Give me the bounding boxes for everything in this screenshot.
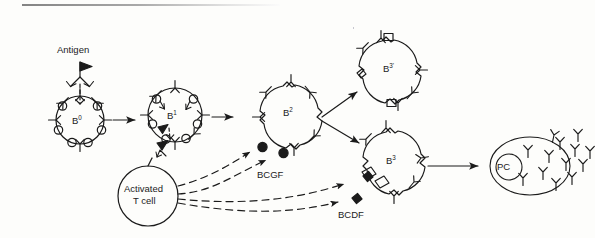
signal-bcgf-arrow bbox=[178, 152, 250, 186]
label-antigen: Antigen bbox=[57, 44, 89, 55]
label-plasma-cell: PC bbox=[497, 161, 510, 172]
signal-bcgf-arrow-2 bbox=[178, 160, 266, 194]
label-bcgf: BCGF bbox=[257, 169, 284, 180]
bcgf-receptor-2 bbox=[279, 148, 288, 157]
label-cell-b1: B1 bbox=[167, 109, 177, 121]
label-t-cell-line2: T cell bbox=[133, 195, 156, 206]
arrow-b2-to-b3 bbox=[322, 121, 359, 143]
bcgf-receptor-1 bbox=[258, 142, 267, 151]
cell-b3prime bbox=[357, 30, 428, 110]
label-bcdf: BCDF bbox=[338, 209, 364, 220]
label-t-cell-line1: Activated bbox=[124, 183, 163, 194]
bcdf-receptor-1 bbox=[363, 172, 373, 182]
label-cell-b3prime: B3' bbox=[383, 62, 394, 74]
arrow-b2-to-b3prime bbox=[322, 92, 357, 117]
signal-bcdf-arrow bbox=[178, 184, 344, 202]
label-cell-b2: B2 bbox=[283, 106, 293, 118]
label-cell-b0: B0 bbox=[72, 114, 82, 126]
label-cell-b3: B3 bbox=[386, 154, 396, 166]
signal-bcdf-arrow-2 bbox=[178, 202, 338, 211]
diagram-canvas: Antigen B0 B1 B2 B3' B3 Activated T cell… bbox=[0, 0, 595, 238]
antigen-symbol bbox=[67, 62, 94, 87]
diagram-svg: Antigen B0 B1 B2 B3' B3 Activated T cell… bbox=[0, 0, 595, 238]
bcdf-receptor-2 bbox=[352, 194, 362, 204]
cell-b1 bbox=[141, 81, 210, 158]
secreted-antibodies bbox=[519, 129, 595, 190]
